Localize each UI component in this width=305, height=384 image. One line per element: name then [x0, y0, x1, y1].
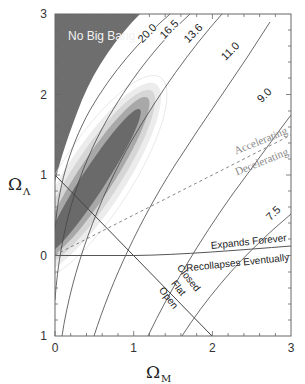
y-axis-label-sub: Λ	[22, 186, 31, 197]
x-tick-0: 0	[52, 341, 59, 355]
age-label-7.5: 7.5	[263, 203, 282, 222]
age-label-9: 9.0	[254, 85, 273, 104]
y-tick-1: 1	[40, 168, 47, 182]
x-axis-label: Ω	[146, 362, 160, 382]
cosmology-chart: 0 1 2 3 3 2 1 0 1 Ω M Ω Λ No Big Bang 20…	[0, 0, 305, 384]
age-label-11: 11.0	[218, 39, 241, 62]
x-tick-3: 3	[288, 341, 295, 355]
expands-forever-label: Expands Forever	[210, 232, 288, 251]
x-tick-2: 2	[209, 341, 216, 355]
age-label-13.6: 13.6	[181, 21, 205, 45]
y-tick-minus-1: 1	[40, 329, 47, 343]
recollapse-boundary	[55, 246, 291, 256]
no-big-bang-label: No Big Bang	[68, 29, 135, 43]
age-label-20: 20.0	[135, 21, 159, 45]
age-label-16.5: 16.5	[157, 17, 181, 41]
y-axis-label: Ω	[8, 174, 22, 194]
recollapses-label: Recollapses Eventually	[186, 252, 290, 274]
y-tick-3: 3	[40, 7, 47, 21]
x-tick-1: 1	[130, 341, 137, 355]
y-tick-0: 0	[40, 249, 47, 263]
confidence-ellipses	[0, 58, 191, 298]
y-tick-2: 2	[40, 88, 47, 102]
x-axis-label-sub: M	[161, 373, 171, 384]
